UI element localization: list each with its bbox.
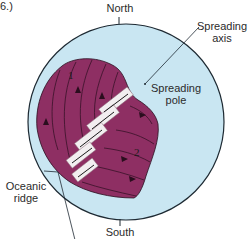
north-label: North	[104, 2, 136, 14]
plate-label-2: 2	[134, 146, 140, 158]
south-label: South	[104, 226, 136, 238]
spreading-pole-label: Spreading pole	[150, 82, 202, 106]
spreading-pole-dot	[144, 83, 146, 85]
plate-label-1: 1	[68, 69, 74, 81]
spreading-axis-label: Spreading axis	[196, 20, 248, 44]
oceanic-ridge-label: Oceanic ridge	[4, 180, 48, 204]
